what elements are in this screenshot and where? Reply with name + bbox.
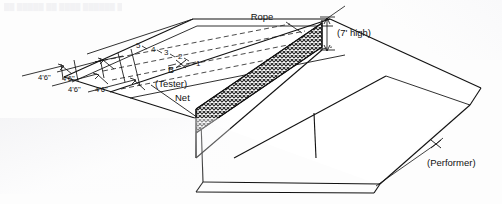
dimension-label-4: 4'6": [95, 85, 108, 94]
figure-root: ██ █████ ██ ████ ██████ █████ ███: [0, 0, 502, 204]
lane-number-2: 2: [178, 52, 183, 61]
dimension-label-3: 4'6": [68, 85, 81, 94]
lane-number-5: 5: [136, 41, 141, 50]
height-label: (7' high): [337, 27, 371, 38]
lane-number-4: 4: [151, 45, 156, 54]
dimension-label-1: 4'6": [38, 73, 51, 82]
performer-label: (Performer): [427, 157, 476, 168]
court-surface: [64, 19, 480, 185]
lane-number-1: 1: [196, 59, 201, 68]
dimension-label-2: 4'6": [62, 74, 75, 83]
tester-label: (Tester): [155, 78, 187, 89]
rope-label: Rope: [251, 11, 274, 22]
lane-number-3: 3: [164, 48, 169, 57]
court-diagram: Rope (7' high) B (Tester) Net (Performer…: [0, 0, 502, 204]
tester-mark-label: B: [168, 65, 174, 75]
net-label: Net: [175, 92, 190, 103]
